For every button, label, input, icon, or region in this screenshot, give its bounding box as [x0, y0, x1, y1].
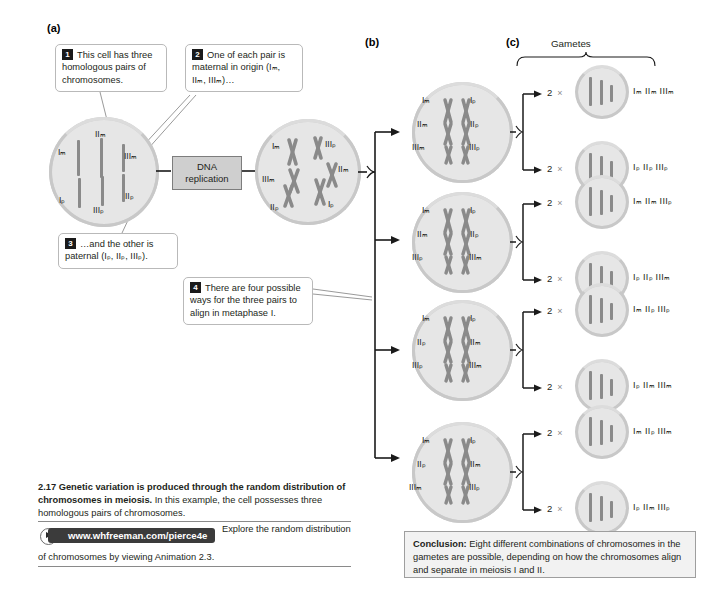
mc3-label-right-1: Iₚ: [470, 314, 476, 323]
gamete-2-label: Iₚ IIₚ IIIₚ: [633, 162, 668, 172]
mc1-label-left-2: IIₘ: [417, 120, 428, 129]
gamete-chromosome-II: [600, 374, 603, 399]
animation-text-line2: of chromosomes by viewing Animation 2.3.: [38, 551, 358, 564]
gamete-1-label: Iₘ IIₘ IIIₘ: [633, 86, 674, 96]
dna-replication-box: DNAreplication: [172, 156, 242, 190]
gamete-4-count: 2×: [547, 273, 563, 284]
gamete-cell-7: [578, 408, 626, 456]
mc3-label-left-3: IIIₚ: [412, 361, 423, 370]
gamete-chromosome-I: [589, 493, 592, 522]
arrow-into-dna-box: [156, 165, 172, 177]
label-rep-Im: Iₘ: [272, 142, 280, 151]
mc4-label-right-3: IIIₚ: [469, 483, 480, 492]
gamete-split-bracket-1: [510, 80, 550, 185]
label-Ip: Iₚ: [59, 196, 65, 205]
count-value: 2: [547, 381, 552, 392]
caption-number: 2.17: [38, 482, 56, 492]
animation-text-line1: Explore the random distribution: [222, 523, 352, 536]
gamete-chromosome-III: [610, 379, 613, 396]
gamete-chromosome-II: [600, 420, 603, 445]
gamete-chromosome-I: [589, 295, 592, 324]
count-value: 2: [547, 305, 552, 316]
gamete-chromosome-I: [589, 371, 592, 400]
label-rep-IIIp: IIIₚ: [325, 140, 336, 149]
gamete-8-label: Iₚ IIₘ IIIₚ: [633, 502, 670, 512]
chromosome-IIIp: [101, 176, 104, 206]
gametes-header: Gametes: [551, 38, 591, 49]
gamete-split-bracket-4: [510, 420, 550, 525]
mc3-label-right-3: IIIₘ: [469, 361, 482, 370]
animation-url-bar[interactable]: www.whfreeman.com/pierce4e: [48, 528, 215, 543]
caption-rule-top: [38, 521, 351, 522]
gamete-8-count: 2×: [547, 503, 563, 514]
gamete-chromosome-III: [610, 85, 613, 102]
gamete-chromosome-I: [589, 417, 592, 446]
cell-interior: [578, 484, 626, 532]
figure-caption: 2.17 Genetic variation is produced throu…: [38, 481, 368, 521]
multiply-sign: ×: [557, 164, 562, 174]
gamete-2-count: 2×: [547, 163, 563, 174]
label-rep-IIm: IIₘ: [338, 165, 349, 174]
label-rep-IIIm: IIIₘ: [262, 175, 275, 184]
gamete-chromosome-III: [610, 195, 613, 212]
mc2-label-right-3: IIIₘ: [469, 253, 482, 262]
meiosis-branch-bracket: [358, 110, 414, 480]
label-IIIm: IIIₘ: [124, 152, 137, 161]
mc2-label-left-2: IIₘ: [417, 230, 428, 239]
mc2-label-right-2: IIₚ: [470, 230, 479, 239]
mc4-label-left-2: IIₚ: [417, 460, 426, 469]
cell-interior: [578, 408, 626, 456]
mc4-label-right-1: Iₚ: [470, 436, 476, 445]
mc1-label-right-1: Iₚ: [470, 96, 476, 105]
mc4-label-left-3: IIIₘ: [409, 483, 422, 492]
chromosome-Ip: [78, 178, 81, 208]
gamete-cell-5: [578, 286, 626, 334]
gamete-chromosome-II: [600, 298, 603, 323]
mc1-label-right-3: IIIₚ: [469, 143, 480, 152]
mc1-label-left-3: IIIₘ: [412, 143, 425, 152]
gamete-cell-8: [578, 484, 626, 532]
count-value: 2: [547, 503, 552, 514]
cell-interior: [578, 286, 626, 334]
gamete-chromosome-III: [610, 303, 613, 320]
gamete-split-bracket-3: [510, 298, 550, 403]
mc4-label-right-2: IIₘ: [470, 460, 481, 469]
gamete-3-count: 2×: [547, 197, 563, 208]
conclusion-label: Conclusion:: [413, 539, 467, 549]
chromosome-Im: [77, 140, 80, 176]
gamete-6-count: 2×: [547, 381, 563, 392]
gametes-curly-bracket: [515, 52, 660, 68]
gamete-3-label: Iₘ IIₘ IIIₚ: [633, 196, 672, 206]
multiply-sign: ×: [557, 504, 562, 514]
chromosome-IIm: [100, 138, 103, 178]
gamete-5-label: Iₘ IIₚ IIIₚ: [633, 304, 670, 314]
label-IIm: IIₘ: [95, 130, 106, 139]
gamete-7-label: Iₘ IIₚ IIIₘ: [633, 426, 672, 436]
mc3-label-left-1: Iₘ: [422, 314, 430, 323]
mc2-label-left-3: IIIₚ: [412, 253, 423, 262]
multiply-sign: ×: [557, 428, 562, 438]
mc4-label-left-1: Iₘ: [422, 436, 430, 445]
gamete-cell-3: [578, 178, 626, 226]
mc2-label-left-1: Iₘ: [422, 206, 430, 215]
label-IIp: IIₚ: [125, 192, 134, 201]
mc2-label-right-1: Iₚ: [470, 206, 476, 215]
count-value: 2: [547, 427, 552, 438]
label-Im: Iₘ: [58, 148, 66, 157]
gamete-chromosome-I: [589, 77, 592, 106]
figure-root: (a) (b) (c) 1This cell has three homolog…: [0, 0, 705, 600]
gamete-4-label: Iₚ IIₚ IIIₘ: [633, 272, 670, 282]
conclusion-box: Conclusion: Eight different combinations…: [404, 531, 696, 578]
gamete-chromosome-I: [589, 187, 592, 216]
multiply-sign: ×: [557, 198, 562, 208]
count-value: 2: [547, 163, 552, 174]
gamete-1-count: 2×: [547, 87, 563, 98]
label-rep-Ip: Iₚ: [328, 200, 334, 209]
dna-replication-label: DNAreplication: [185, 161, 228, 185]
multiply-sign: ×: [557, 88, 562, 98]
gamete-chromosome-III: [610, 501, 613, 518]
gamete-cell-6: [578, 362, 626, 410]
caption-rule-bottom: [38, 566, 351, 567]
count-value: 2: [547, 87, 552, 98]
gamete-chromosome-II: [600, 496, 603, 521]
